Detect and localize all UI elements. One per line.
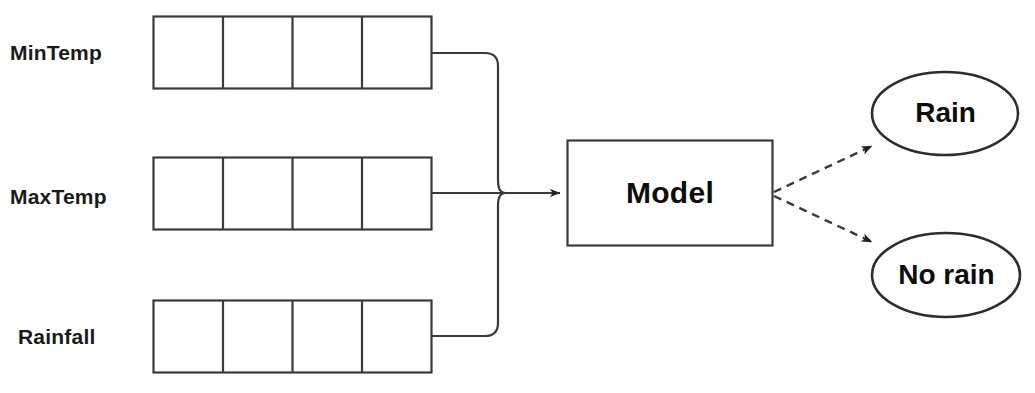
connector-mintemp-to-model xyxy=(432,53,506,193)
feature-label-mintemp: MinTemp xyxy=(10,41,102,65)
feature-row-mintemp xyxy=(154,17,432,89)
feature-label-rainfall: Rainfall xyxy=(18,325,95,349)
diagram-canvas-root: MinTemp MaxTemp Rainfall Model Rain No r… xyxy=(0,0,1035,393)
flow-diagram-svg xyxy=(0,0,1035,393)
connector-model-to-norain xyxy=(774,196,872,242)
feature-label-maxtemp: MaxTemp xyxy=(10,185,107,209)
connector-model-to-rain xyxy=(774,146,872,192)
feature-row-rainfall xyxy=(154,301,432,373)
output-label-rain: Rain xyxy=(872,97,1019,129)
feature-row-maxtemp xyxy=(154,158,432,230)
connector-rainfall-to-model xyxy=(432,193,506,336)
model-box-label: Model xyxy=(567,176,773,210)
output-label-norain: No rain xyxy=(872,259,1021,291)
